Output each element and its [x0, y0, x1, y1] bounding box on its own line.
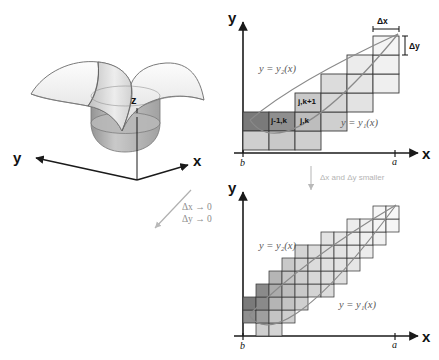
delta-x-label: Δx: [377, 16, 388, 26]
cell-label-j-kplus1: j,k+1: [297, 97, 317, 106]
coarse-y-axis-label: y: [228, 9, 237, 26]
fine-x-axis-label: x: [422, 328, 431, 345]
delta-y-bracket: [402, 36, 408, 55]
fine-cells: [243, 206, 399, 336]
fine-x-start-label: b: [240, 340, 245, 351]
y-axis-label-3d: y: [13, 149, 22, 166]
coarse-upper-curve-label: y = y₂(x): [258, 63, 296, 75]
coarse-x-axis-label: x: [422, 145, 431, 162]
coarse-x-start-label: b: [240, 157, 245, 168]
fine-grid-panel: y x b a: [228, 179, 431, 351]
fine-x-end-label: a: [392, 339, 397, 350]
x-axis-3d: [137, 165, 188, 180]
coarse-cells: [243, 36, 399, 150]
figure-canvas: z x y Δx → 0 Δy → 0 Δx and Δy smaller y …: [0, 0, 439, 360]
fine-lower-curve-label: y = y₁(x): [338, 299, 376, 311]
cell-label-j-k: j,k: [299, 116, 309, 125]
x-axis-label-3d: x: [193, 152, 202, 169]
refine-note-label: Δx and Δy smaller: [320, 173, 385, 182]
fine-upper-curve-label: y = y₂(x): [258, 240, 296, 252]
coarse-x-end-label: a: [392, 156, 397, 167]
delta-y-label: Δy: [409, 41, 420, 51]
delta-x-bracket: [373, 26, 399, 32]
surface-panel: z x y: [13, 62, 204, 180]
fine-y-axis-label: y: [228, 179, 237, 196]
z-axis-label: z: [131, 94, 137, 106]
surface-sheet: [31, 62, 204, 131]
y-axis-3d: [36, 158, 137, 180]
limit-label-dy: Δy → 0: [182, 214, 212, 224]
coarse-grid-panel: y x b a y =: [228, 9, 431, 168]
limit-label-dx: Δx → 0: [182, 202, 212, 212]
cell-label-jminus1-k: j-1,k: [270, 116, 288, 125]
coarse-lower-curve-label: y = y₁(x): [340, 117, 378, 129]
